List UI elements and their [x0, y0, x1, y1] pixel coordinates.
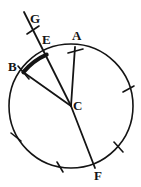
point-label-G: G — [30, 12, 40, 25]
point-label-C: C — [73, 99, 82, 112]
tick-on-ray-near-G-icon — [27, 26, 39, 34]
segment-CF — [71, 106, 95, 168]
point-label-B: B — [8, 60, 17, 73]
segment-CB — [23, 72, 71, 106]
tick-circle-right-icon — [123, 86, 134, 92]
tick-circle-lower-right-icon — [114, 142, 123, 152]
point-label-F: F — [94, 169, 102, 182]
point-label-A: A — [72, 29, 81, 42]
geometry-canvas — [0, 0, 141, 187]
geometry-figure: A B C E F G — [0, 0, 141, 187]
point-label-E: E — [42, 33, 51, 46]
